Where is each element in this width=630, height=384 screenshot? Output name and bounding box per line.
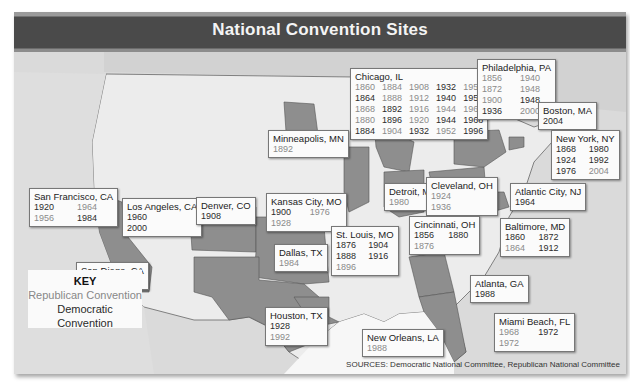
city-label: Baltimore, MD bbox=[505, 221, 565, 232]
year-republican: 1972 bbox=[499, 338, 531, 349]
year-democratic: 1864 bbox=[355, 93, 375, 104]
city-label: New York, NY bbox=[556, 133, 615, 144]
year-republican: 1888 bbox=[382, 93, 402, 104]
year-republican: 1984 bbox=[279, 258, 299, 268]
year-democratic: 1896 bbox=[382, 115, 402, 126]
year-democratic: 1908 bbox=[201, 211, 221, 221]
year-democratic: 1932 bbox=[436, 82, 456, 93]
year-democratic: 2004 bbox=[543, 116, 563, 126]
city-label: Boston, MA bbox=[543, 105, 592, 116]
map-key: KEY Republican Convention Democratic Con… bbox=[28, 270, 142, 328]
callout-atlanta: Atlanta, GA 1988 bbox=[470, 275, 529, 303]
callout-dallas: Dallas, TX 1984 bbox=[274, 244, 328, 272]
year-democratic: 1856 bbox=[414, 230, 441, 241]
year-republican: 1936 bbox=[431, 202, 493, 213]
city-label: Atlantic City, NJ bbox=[515, 186, 581, 197]
year-democratic: 1912 bbox=[539, 243, 566, 254]
callout-new-orleans: New Orleans, LA 1988 bbox=[362, 329, 444, 357]
callout-los-angeles: Los Angeles, CA 1960 2000 bbox=[122, 198, 202, 237]
year-democratic: 1892 bbox=[382, 104, 402, 115]
year-democratic: 1960 bbox=[127, 212, 197, 223]
year-republican: 1872 bbox=[482, 84, 513, 95]
city-label: Cleveland, OH bbox=[431, 180, 493, 191]
map-figure: National Convention Sites Chicago, IL 18… bbox=[14, 12, 626, 374]
year-list: 1868 1980 1924 1992 1976 2004 bbox=[556, 144, 615, 177]
city-label: Miami Beach, FL bbox=[499, 316, 570, 327]
year-republican: 1908 bbox=[409, 82, 429, 93]
year-republican: 1956 bbox=[34, 213, 70, 224]
city-label: St. Louis, MO bbox=[336, 229, 394, 240]
year-republican: 1952 bbox=[436, 126, 456, 137]
year-democratic: 1904 bbox=[368, 240, 393, 251]
year-republican: 1900 bbox=[482, 95, 513, 106]
city-label: Cincinnati, OH bbox=[414, 219, 475, 230]
year-republican: 1944 bbox=[436, 104, 456, 115]
year-democratic: 1900 bbox=[271, 207, 303, 218]
city-label: Kansas City, MO bbox=[271, 196, 342, 207]
callout-san-francisco: San Francisco, CA 1920 1964 1956 1984 bbox=[29, 188, 118, 227]
year-list: 1968 1972 1972 bbox=[499, 327, 570, 349]
city-label: San Francisco, CA bbox=[34, 191, 113, 202]
year-democratic: 1932 bbox=[409, 126, 429, 137]
year-democratic: 1884 bbox=[355, 126, 375, 137]
year-republican: 1940 bbox=[520, 73, 551, 84]
year-list: 1856 1880 1876 bbox=[414, 230, 475, 252]
callout-minneapolis: Minneapolis, MN 1892 bbox=[268, 130, 349, 158]
year-republican: 1920 bbox=[409, 115, 429, 126]
callout-st-louis: St. Louis, MO 1876 1904 1888 1916 1896 bbox=[331, 226, 399, 276]
callout-chicago: Chicago, IL 1860 1884 1908 1932 1952 186… bbox=[350, 68, 488, 140]
city-label: Chicago, IL bbox=[355, 71, 483, 82]
year-list: 1860 1884 1908 1932 1952 1864 1888 1912 … bbox=[355, 82, 483, 137]
year-democratic: 1996 bbox=[463, 126, 483, 137]
year-republican: 1896 bbox=[336, 262, 361, 273]
year-democratic: 1860 bbox=[505, 232, 532, 243]
year-democratic: 2000 bbox=[127, 223, 197, 234]
year-republican: 1876 bbox=[414, 241, 441, 252]
callout-new-york: New York, NY 1868 1980 1924 1992 1976 20… bbox=[551, 130, 620, 180]
year-republican: 1892 bbox=[273, 144, 293, 154]
key-democratic: Democratic Convention bbox=[28, 302, 142, 330]
map-title: National Convention Sites bbox=[14, 20, 626, 40]
year-democratic: 1924 bbox=[556, 155, 582, 166]
source-note: SOURCES: Democratic National Committee, … bbox=[346, 360, 620, 369]
year-republican: 1884 bbox=[382, 82, 402, 93]
year-republican: 1916 bbox=[409, 104, 429, 115]
year-republican: 2004 bbox=[589, 166, 615, 177]
year-democratic: 1976 bbox=[556, 166, 582, 177]
year-democratic: 1940 bbox=[436, 93, 456, 104]
callout-cincinnati: Cincinnati, OH 1856 1880 1876 bbox=[409, 216, 480, 255]
year-democratic: 1872 bbox=[539, 232, 566, 243]
year-democratic: 1876 bbox=[336, 240, 361, 251]
year-democratic: 1984 bbox=[77, 213, 113, 224]
city-label: Minneapolis, MN bbox=[273, 133, 344, 144]
key-republican: Republican Convention bbox=[28, 288, 142, 302]
year-republican: 1868 bbox=[355, 104, 375, 115]
key-title: KEY bbox=[28, 274, 142, 288]
year-democratic: 1880 bbox=[448, 230, 475, 241]
year-republican: 1880 bbox=[355, 115, 375, 126]
year-democratic: 1928 bbox=[270, 321, 323, 332]
city-label: New Orleans, LA bbox=[367, 332, 439, 343]
city-label: Philadelphia, PA bbox=[482, 62, 551, 73]
year-republican: 1904 bbox=[382, 126, 402, 137]
city-label: Dallas, TX bbox=[279, 247, 323, 258]
callout-cleveland: Cleveland, OH 1924 1936 bbox=[426, 177, 498, 216]
year-republican: 1928 bbox=[271, 218, 303, 229]
year-republican: 1968 bbox=[499, 327, 531, 338]
year-republican: 1980 bbox=[389, 197, 409, 207]
year-list: 1860 1872 1864 1912 bbox=[505, 232, 565, 254]
year-democratic: 1916 bbox=[368, 251, 393, 262]
city-label: Los Angeles, CA bbox=[127, 201, 197, 212]
year-democratic: 1964 bbox=[515, 197, 535, 207]
year-democratic: 1988 bbox=[475, 289, 495, 299]
year-list: 1876 1904 1888 1916 1896 bbox=[336, 240, 394, 273]
year-democratic: 1980 bbox=[589, 144, 615, 155]
callout-miami-beach: Miami Beach, FL 1968 1972 1972 bbox=[494, 313, 575, 352]
year-republican: 1864 bbox=[505, 243, 532, 254]
year-democratic: 1920 bbox=[34, 202, 70, 213]
year-republican: 1924 bbox=[431, 191, 493, 202]
callout-houston: Houston, TX 1928 1992 bbox=[265, 307, 328, 346]
callout-denver: Denver, CO 1908 bbox=[196, 197, 256, 225]
year-republican: 1976 bbox=[310, 207, 342, 218]
year-republican: 1964 bbox=[77, 202, 113, 213]
